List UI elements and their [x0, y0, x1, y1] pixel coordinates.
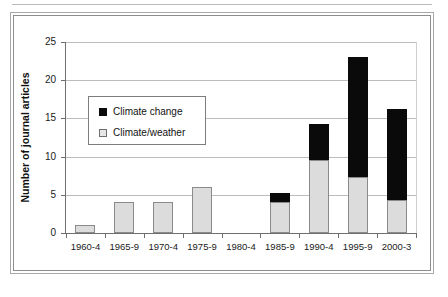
y-axis-tick-mark: [61, 42, 66, 43]
x-axis-tick-label: 1975-9: [183, 241, 222, 252]
x-axis-tick-mark: [260, 233, 261, 238]
chart-legend: Climate change Climate/weather: [88, 96, 206, 145]
bar-segment: [309, 124, 329, 161]
x-axis-tick-label: 1985-9: [260, 241, 299, 252]
y-axis-tick-mark: [61, 80, 66, 81]
x-axis-tick-mark: [105, 233, 106, 238]
x-axis-tick-label: 1980-4: [222, 241, 261, 252]
y-axis-tick-label: 10: [28, 152, 56, 162]
x-axis-tick-label: 1965-9: [105, 241, 144, 252]
legend-item-climate-weather: Climate/weather: [99, 124, 185, 138]
bar-segment: [114, 202, 134, 233]
bar-stack: [231, 42, 251, 233]
bar-segment: [309, 160, 329, 233]
y-axis-tick-label: 15: [28, 113, 56, 123]
bar-segment: [270, 202, 290, 233]
x-axis-tick-mark: [377, 233, 378, 238]
y-axis-title: Number of journal articles: [18, 42, 32, 233]
x-axis-tick-mark: [299, 233, 300, 238]
y-axis-tick-label: 0: [28, 228, 56, 238]
legend-item-climate-change: Climate change: [99, 103, 182, 117]
bar-segment: [348, 57, 368, 177]
bar-segment: [387, 109, 407, 200]
x-axis-tick-label: 1960-4: [66, 241, 105, 252]
y-axis-tick-label: 25: [28, 37, 56, 47]
x-axis-tick-label: 1990-4: [299, 241, 338, 252]
bar-segment: [192, 187, 212, 233]
x-axis-tick-label: 1995-9: [338, 241, 377, 252]
x-axis-tick-mark: [183, 233, 184, 238]
x-axis-tick-mark: [338, 233, 339, 238]
dark-square-swatch-icon: [99, 108, 107, 116]
figure-container: Number of journal articles 0510152025 19…: [0, 0, 448, 297]
legend-label: Climate/weather: [113, 127, 185, 138]
bar-segment: [75, 225, 95, 233]
x-axis-tick-mark: [416, 233, 417, 238]
y-axis-tick-mark: [61, 157, 66, 158]
x-axis-tick-label: 1970-4: [144, 241, 183, 252]
x-axis-tick-mark: [66, 233, 67, 238]
y-axis-tick-mark: [61, 195, 66, 196]
plot-right-edge: [416, 42, 417, 233]
x-axis-tick-label: 2000-3: [377, 241, 416, 252]
bar-stack: [387, 42, 407, 233]
bar-segment: [348, 177, 368, 233]
y-axis-tick-label: 20: [28, 75, 56, 85]
top-rule-divider: [12, 4, 432, 5]
bar-stack: [270, 42, 290, 233]
bar-segment: [153, 202, 173, 233]
x-axis-tick-mark: [222, 233, 223, 238]
y-axis-tick-mark: [61, 118, 66, 119]
bar-stack: [309, 42, 329, 233]
y-axis-tick-label: 5: [28, 190, 56, 200]
bar-segment: [270, 193, 290, 203]
bar-stack: [348, 42, 368, 233]
bar-segment: [387, 200, 407, 233]
x-axis-tick-mark: [144, 233, 145, 238]
legend-label: Climate change: [113, 106, 182, 117]
light-square-swatch-icon: [99, 129, 107, 137]
